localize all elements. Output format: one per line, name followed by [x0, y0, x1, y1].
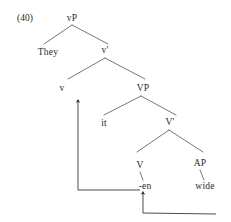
- example-number-label: (40): [17, 13, 33, 23]
- tree-node-vp: vP: [67, 13, 77, 23]
- tree-branch-group: [44, 25, 204, 180]
- movement-AP-to-V: [143, 193, 216, 214]
- tree-node-v: V: [136, 160, 143, 170]
- tree-branch-vbar-vp: [105, 58, 145, 79]
- tree-branch-vbar-v: [68, 58, 105, 79]
- tree-branch-vp-vbar: [141, 96, 176, 115]
- tree-node-vbar: v': [102, 45, 109, 55]
- tree-branch-vbar-ap: [169, 130, 203, 152]
- syntax-tree-figure: (40) vPTheyv'vVPitV'VAP-enwide: [0, 0, 231, 222]
- tree-node-vp: VP: [137, 83, 150, 93]
- tree-node-v: v: [60, 83, 65, 93]
- tree-branch-vp-they: [44, 25, 72, 44]
- tree-branch-vp-vbar: [72, 25, 108, 44]
- tree-node-ap: AP: [194, 158, 207, 168]
- tree-node-vbar: V': [166, 117, 175, 127]
- tree-branch-vp-it: [104, 96, 141, 115]
- head-movement-V-to-v: [78, 101, 140, 190]
- tree-node-en: -en: [139, 181, 152, 191]
- tree-branch-v-en: [140, 172, 143, 180]
- tree-branch-ap-wide: [200, 170, 204, 180]
- tree-node-they: They: [38, 47, 58, 57]
- tree-node-it: it: [101, 118, 107, 128]
- tree-node-wide: wide: [195, 181, 214, 191]
- tree-branch-vbar-v: [137, 130, 169, 152]
